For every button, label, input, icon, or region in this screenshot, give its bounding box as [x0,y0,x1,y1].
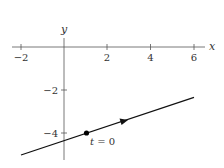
x-tick-label: 4 [147,52,153,63]
chart-plot: −2 2 4 6 −2 −4 x y t = 0 [0,0,224,168]
y-tick-label: −2 [43,85,58,96]
point-annotation: t = 0 [90,136,115,147]
x-tick-label: 6 [191,52,197,63]
x-tick-label: 2 [104,52,110,63]
y-tick-label: −4 [43,128,58,139]
point-t0 [84,130,89,135]
y-axis-label: y [60,23,68,36]
x-axis-label: x [209,40,216,53]
x-tick-label: −2 [14,52,29,63]
